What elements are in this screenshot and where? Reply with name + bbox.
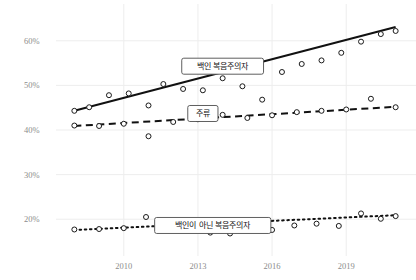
data-point xyxy=(270,113,275,118)
data-point xyxy=(72,108,77,113)
y-axis-tick-labels: 60%50%40%30%20% xyxy=(24,36,40,224)
data-point xyxy=(171,119,176,124)
data-point xyxy=(220,112,225,117)
data-point xyxy=(393,105,398,110)
data-point xyxy=(344,107,349,112)
data-point xyxy=(97,227,102,232)
data-point xyxy=(393,28,398,33)
series-label-text: 주류 xyxy=(196,109,210,118)
data-point xyxy=(144,215,149,220)
data-point xyxy=(146,103,151,108)
x-tick-label: 2010 xyxy=(115,261,132,271)
series-label-text: 백인 복음주의자 xyxy=(197,61,250,71)
trend-lines xyxy=(74,27,395,230)
data-point xyxy=(336,223,341,228)
data-point xyxy=(87,105,92,110)
data-point xyxy=(245,115,250,120)
data-point xyxy=(200,88,205,93)
data-point xyxy=(378,32,383,37)
data-point xyxy=(121,226,126,231)
series-label: 백인 복음주의자 xyxy=(182,58,264,74)
x-tick-label: 2013 xyxy=(189,261,206,271)
data-point xyxy=(72,227,77,232)
series-label: 백인이 아닌 복음주의자 xyxy=(155,217,271,233)
data-point xyxy=(97,123,102,128)
data-point xyxy=(339,50,344,55)
data-point xyxy=(319,58,324,63)
data-point xyxy=(126,91,131,96)
data-point xyxy=(181,86,186,91)
data-point xyxy=(279,70,284,75)
data-point xyxy=(378,216,383,221)
data-point xyxy=(299,61,304,66)
x-tick-label: 2019 xyxy=(338,261,355,271)
y-tick-label: 60% xyxy=(24,36,40,46)
data-point xyxy=(106,93,111,98)
x-tick-label: 2016 xyxy=(264,261,281,271)
y-tick-label: 20% xyxy=(24,214,40,224)
chart-container: 60%50%40%30%20% 2010201320162019 백인 복음주의… xyxy=(0,0,416,280)
data-point xyxy=(146,134,151,139)
data-point xyxy=(359,39,364,44)
data-point xyxy=(260,97,265,102)
data-point xyxy=(72,123,77,128)
scatter-plot: 60%50%40%30%20% 2010201320162019 백인 복음주의… xyxy=(0,0,416,280)
series-label-text: 백인이 아닌 복음주의자 xyxy=(175,220,251,230)
data-point xyxy=(393,214,398,219)
y-tick-label: 30% xyxy=(24,170,40,180)
data-point xyxy=(240,84,245,89)
data-point xyxy=(294,110,299,115)
y-tick-label: 40% xyxy=(24,125,40,135)
x-axis-tick-labels: 2010201320162019 xyxy=(115,261,354,271)
data-point xyxy=(319,108,324,113)
y-tick-label: 50% xyxy=(24,80,40,90)
data-point xyxy=(359,211,364,216)
data-point xyxy=(220,76,225,81)
data-point xyxy=(314,221,319,226)
data-point xyxy=(292,223,297,228)
data-point xyxy=(368,96,373,101)
data-point xyxy=(121,121,126,126)
series-label: 주류 xyxy=(188,105,218,121)
data-point xyxy=(161,82,166,87)
